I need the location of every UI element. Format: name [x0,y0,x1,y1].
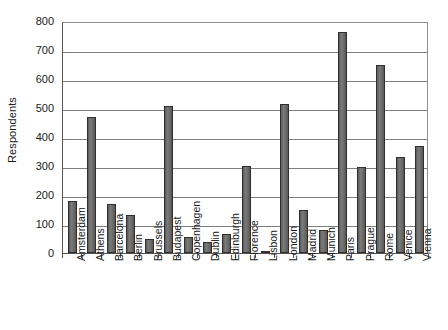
x-axis-category-label-text: Prague [365,227,376,261]
x-axis-category-label-text: Budapest [172,217,183,261]
x-axis-category-label-text: Athens [95,228,106,261]
x-axis-category-label-text: Brussels [153,221,164,261]
x-axis-category-label-text: Vienna [422,228,433,261]
x-axis-category-label-text: Rome [384,233,395,261]
x-axis-category-label-text: Berlin [133,234,144,261]
x-axis-category-label: Edinburgh [219,259,233,329]
y-axis-tick-label: 400 [36,132,54,143]
x-axis-category-label-text: Amsterdam [76,207,87,261]
x-axis-category-label: Amsterdam [65,259,79,329]
x-axis-category-label: Rome [373,259,387,329]
x-axis-category-label: London [277,259,291,329]
x-axis-category-label: Berlin [122,259,136,329]
y-axis-tick-labels: 0100200300400500600700800 [26,0,58,330]
x-axis-category-label: Munich [315,259,329,329]
x-axis-category-label: Copenhagen [180,259,194,329]
x-axis-category-label: Florence [238,259,252,329]
y-axis-tick-label: 500 [36,103,54,114]
y-axis-title: Respondents [0,0,24,260]
x-axis-category-labels: AmsterdamAthensBarcelonaBerlinBrusselsBu… [62,259,428,330]
x-axis-category-label-text: Edinburgh [230,213,241,261]
x-axis-category-label-text: Paris [345,237,356,261]
x-axis-category-label: Athens [84,259,98,329]
x-axis-category-label-text: Dublin [210,231,221,261]
bar [376,65,385,253]
x-axis-category-label-text: Munich [326,227,337,261]
y-axis-tick-label: 0 [48,248,54,259]
x-axis-category-label-text: London [288,226,299,261]
x-axis-category-label-text: Barcelona [114,214,125,261]
x-axis-category-label: Budapest [161,259,175,329]
y-axis-title-text: Respondents [6,97,18,163]
y-axis-tick-label: 800 [36,16,54,27]
bar [338,32,347,253]
x-axis-category-label: Dublin [199,259,213,329]
y-axis-tick-label: 600 [36,74,54,85]
x-axis-category-label: Madrid [296,259,310,329]
x-axis-category-label: Barcelona [103,259,117,329]
x-axis-category-label: Lisbon [257,259,271,329]
y-axis-tick-label: 300 [36,161,54,172]
x-axis-category-label-text: Venice [403,229,414,261]
x-axis-tick [62,254,63,258]
x-axis-category-label-text: Florence [249,220,260,261]
x-axis-category-label-text: Lisbon [268,230,279,261]
x-axis-category-label: Prague [354,259,368,329]
x-axis-category-label: Paris [334,259,348,329]
y-axis-tick-label: 100 [36,219,54,230]
y-axis-tick-label: 200 [36,190,54,201]
x-axis-category-label: Venice [392,259,406,329]
x-axis-category-label: Vienna [411,259,425,329]
x-axis-category-label: Brussels [142,259,156,329]
x-axis-category-label-text: Madrid [307,229,318,261]
x-axis-category-label-text: Copenhagen [191,201,202,261]
bar-chart: Respondents 0100200300400500600700800 Am… [0,0,448,330]
y-axis-tick-label: 700 [36,45,54,56]
